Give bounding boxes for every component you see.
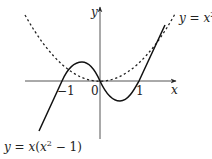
tick-label-one: 1 [136, 85, 144, 97]
parabola-label-eq: = [186, 11, 204, 25]
cubic-label: y = x(x2 − 1) [4, 141, 82, 153]
parabola-label: y = x2 [179, 12, 212, 24]
tick-label-neg-one: −1 [57, 85, 75, 97]
parabola-label-exp: 2 [210, 10, 212, 19]
cubic-label-var2: x [40, 140, 47, 154]
cubic-curve [39, 25, 165, 131]
tick-label-zero: 0 [91, 85, 99, 97]
cubic-label-rest: − 1) [52, 140, 82, 154]
cubic-label-lhs: y [4, 140, 11, 154]
y-axis-label: y [91, 6, 98, 18]
cubic-label-eq: = [11, 140, 29, 154]
parabola-label-lhs: y [179, 11, 186, 25]
function-graph-figure: y x −1 0 1 y = x2 y = x(x2 − 1) [0, 0, 212, 159]
x-axis-label: x [171, 84, 178, 96]
